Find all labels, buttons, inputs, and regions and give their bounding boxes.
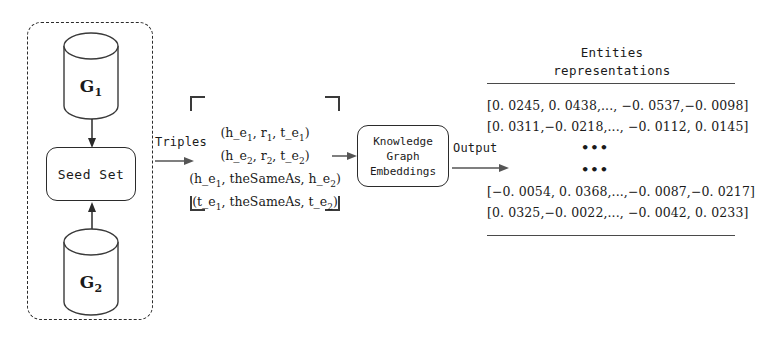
- model-line-1: Knowledge: [373, 134, 433, 149]
- model-line-2: Graph: [386, 149, 419, 164]
- triple-line: (h_e1, theSameAs, h_e2): [168, 170, 362, 193]
- entities-header-line-1: Entities: [487, 44, 737, 62]
- graph-cylinder-g1-label: G1: [62, 76, 120, 99]
- g1-subscript: 1: [94, 86, 102, 99]
- table-rule-bottom: [487, 235, 735, 236]
- diagram-canvas: G1 Seed Set G2 Triples: [0, 0, 760, 337]
- entities-vector-rows: [0. 0245, 0. 0438,..., −0. 0537,−0. 0098…: [487, 84, 737, 223]
- graph-cylinder-g2: G2: [62, 228, 120, 316]
- knowledge-graph-embeddings-box: Knowledge Graph Embeddings: [357, 125, 449, 187]
- triples-list: (h_e1, r1, t_e1) (h_e2, r2, t_e2) (h_e1,…: [168, 124, 362, 216]
- graph-cylinder-g2-label: G2: [62, 272, 120, 295]
- entities-representations-table: Entities representations [0. 0245, 0. 04…: [487, 44, 737, 236]
- ellipsis-row: •••: [487, 137, 737, 159]
- seed-set-label: Seed Set: [58, 167, 125, 182]
- arrow-triples-to-model: [332, 150, 358, 162]
- model-line-3: Embeddings: [370, 164, 436, 179]
- entity-vector-row: [0. 0311,−0. 0218,..., −0. 0112, 0. 0145…: [487, 116, 737, 137]
- entity-vector-row: [−0. 0054, 0. 0368,...,−0. 0087,−0. 0217…: [487, 181, 737, 202]
- triple-line: (t_e1, theSameAs, t_e2): [168, 193, 362, 216]
- entity-vector-row: [0. 0245, 0. 0438,..., −0. 0537,−0. 0098…: [487, 95, 737, 116]
- triples-corner-top-right-icon: [325, 96, 340, 111]
- triples-block: (h_e1, r1, t_e1) (h_e2, r2, t_e2) (h_e1,…: [190, 96, 340, 211]
- arrow-g2-to-seed-set: [86, 201, 98, 231]
- arrow-g1-to-seed-set: [86, 119, 98, 149]
- triples-corner-top-left-icon: [190, 96, 205, 111]
- entities-table-header: Entities representations: [487, 44, 737, 80]
- graph-cylinder-g1: G1: [62, 32, 120, 120]
- seed-set-box: Seed Set: [46, 147, 136, 201]
- entity-vector-row: [0. 0325,−0. 0022,..., −0. 0042, 0. 0233…: [487, 202, 737, 223]
- triple-line: (h_e1, r1, t_e1): [168, 124, 362, 147]
- entities-header-line-2: representations: [487, 62, 737, 80]
- g2-subscript: 2: [94, 282, 102, 295]
- ellipsis-row: •••: [487, 159, 737, 181]
